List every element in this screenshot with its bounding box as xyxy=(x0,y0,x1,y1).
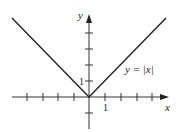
x-axis-arrow-icon xyxy=(160,94,169,100)
x-axis-label: x xyxy=(164,101,170,113)
graph-absolute-value: y x 1 1 y = |x| xyxy=(0,0,186,132)
function-label: y = |x| xyxy=(124,63,154,75)
y-axis-arrow-icon xyxy=(86,14,92,23)
y-tick-label-1: 1 xyxy=(79,76,84,87)
x-tick-label-1: 1 xyxy=(103,102,108,113)
y-axis-label: y xyxy=(77,9,83,21)
